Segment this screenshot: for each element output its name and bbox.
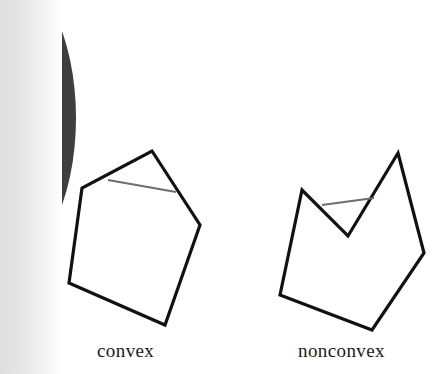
nonconvex-polygon-outline: [280, 153, 424, 330]
convex-polygon-outline: [69, 151, 200, 325]
convex-figure-label: convex: [97, 340, 154, 362]
page-number-text: 5: [12, 75, 72, 102]
scanned-figure-page: 5 convex nonconvex: [0, 0, 436, 374]
figure-canvas: 5: [0, 0, 436, 374]
page-edge-shadow-blob: 5: [0, 0, 76, 270]
nonconvex-figure-label: nonconvex: [298, 340, 385, 362]
nonconvex-polygon-figure: [280, 153, 424, 330]
shadow-blob-ellipse: [0, 0, 76, 270]
convex-polygon-figure: [69, 151, 200, 325]
